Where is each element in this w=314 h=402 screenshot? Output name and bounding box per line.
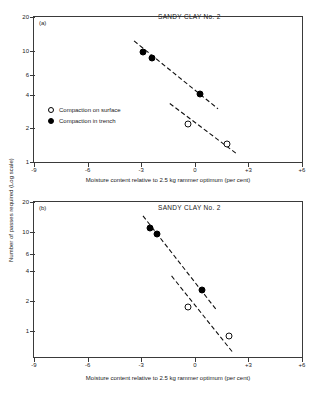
y-tick-label: 2 <box>26 298 29 304</box>
plot-frame-b: (b) 12461020-9-6-30+3+6 <box>33 201 303 358</box>
y-tick-label: 6 <box>26 251 29 257</box>
y-tick-label: 4 <box>26 92 29 98</box>
figure-root: Number of passes required (Log scale) (a… <box>0 0 314 402</box>
x-tick-label: -3 <box>139 362 144 369</box>
x-axis-title-a: Moisture content relative to 2.5 kg ramm… <box>33 177 303 183</box>
sample-title-b: SANDY CLAY No. 2 <box>158 204 221 211</box>
x-axis-title-b: Moisture content relative to 2.5 kg ramm… <box>33 375 303 381</box>
y-tick-label: 10 <box>22 48 29 54</box>
y-tick-label: 20 <box>22 199 29 205</box>
y-tick-label: 6 <box>26 72 29 78</box>
chart-panel-a: (a) 12461020-9-6-30+3+6Compaction on sur… <box>0 0 314 190</box>
x-tick-label: +3 <box>245 167 252 174</box>
data-point-trench <box>197 90 204 97</box>
data-point-trench <box>154 230 161 237</box>
plot-area-a: (a) 12461020-9-6-30+3+6Compaction on sur… <box>34 17 302 162</box>
y-tick-label: 4 <box>26 268 29 274</box>
x-tick-label: 0 <box>193 167 196 174</box>
x-tick-label: -3 <box>139 167 144 174</box>
y-tick-label: 20 <box>22 14 29 20</box>
x-tick-label: -6 <box>85 167 90 174</box>
sample-title-a: SANDY CLAY No. 2 <box>158 13 221 20</box>
y-tick-label: 1 <box>26 159 29 165</box>
legend-item-label: Compaction on surface <box>59 106 121 114</box>
data-point-surface <box>184 304 191 311</box>
open-circle-icon <box>48 107 54 113</box>
plot-frame-a: (a) 12461020-9-6-30+3+6Compaction on sur… <box>33 16 303 163</box>
trendline-layer <box>34 17 302 162</box>
filled-circle-icon <box>48 118 54 124</box>
data-point-trench <box>148 55 155 62</box>
legend-item-label: Compaction in trench <box>59 117 116 125</box>
trendline-filled-circle <box>134 41 218 109</box>
data-point-trench <box>139 48 146 55</box>
y-tick-label: 1 <box>26 328 29 334</box>
data-point-surface <box>223 141 230 148</box>
x-tick-label: -9 <box>31 167 36 174</box>
chart-panel-b: (b) 12461020-9-6-30+3+6 SANDY CLAY No. 2… <box>0 188 314 402</box>
data-point-surface <box>225 332 232 339</box>
x-tick-label: -9 <box>31 362 36 369</box>
x-tick-label: 0 <box>193 362 196 369</box>
plot-area-b: (b) 12461020-9-6-30+3+6 <box>34 202 302 357</box>
y-tick-label: 2 <box>26 125 29 131</box>
data-point-trench <box>147 224 154 231</box>
x-tick-label: +6 <box>299 362 306 369</box>
y-tick-label: 10 <box>22 229 29 235</box>
data-point-surface <box>184 120 191 127</box>
x-tick-label: -6 <box>85 362 90 369</box>
x-tick-label: +6 <box>299 167 306 174</box>
data-point-trench <box>198 287 205 294</box>
x-tick-label: +3 <box>245 362 252 369</box>
trendline-filled-circle <box>143 216 216 310</box>
trendline-layer <box>34 202 302 357</box>
